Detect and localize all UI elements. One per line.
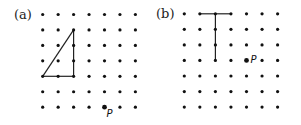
- grid-dot: [103, 90, 106, 93]
- grid-dot: [229, 12, 232, 15]
- grid-dot: [72, 44, 75, 47]
- grid-dot: [72, 59, 75, 62]
- grid-dot: [87, 28, 90, 31]
- grid-dot: [118, 106, 121, 109]
- grid-dot: [260, 106, 263, 109]
- grid-dot: [260, 28, 263, 31]
- grid-dot: [118, 90, 121, 93]
- point-p-label: P: [107, 108, 114, 119]
- grid-dot: [260, 74, 263, 77]
- grid-dot: [72, 75, 75, 78]
- dot-grid-figure: (a) (b) P P: [0, 0, 301, 125]
- grid-dot: [134, 59, 137, 62]
- grid-dot: [229, 28, 232, 31]
- grid-dot: [276, 43, 279, 46]
- grid-dot: [183, 59, 186, 62]
- grid-dot: [57, 13, 60, 16]
- grid-dot: [198, 43, 201, 46]
- grid-dot: [57, 59, 60, 62]
- grid-dot: [134, 28, 137, 31]
- grid-dot: [245, 12, 248, 15]
- grid-dot: [198, 106, 201, 109]
- grid-dot: [57, 106, 60, 109]
- grid-dot: [118, 59, 121, 62]
- grid-dot: [229, 59, 232, 62]
- grid-dot: [276, 106, 279, 109]
- grid-dot: [41, 75, 44, 78]
- point-p-dot: [244, 58, 249, 63]
- grid-dot: [87, 106, 90, 109]
- grid-dot: [229, 90, 232, 93]
- grid-dot: [276, 28, 279, 31]
- grid-dot: [87, 44, 90, 47]
- grid-dot: [134, 44, 137, 47]
- grid-dot: [245, 90, 248, 93]
- grid-dot: [103, 59, 106, 62]
- grid-dot: [57, 28, 60, 31]
- panel-a-label: (a): [14, 7, 32, 22]
- grid-dot: [118, 75, 121, 78]
- panel-b-grid: P: [183, 12, 280, 109]
- grid-dot: [87, 75, 90, 78]
- grid-dot: [214, 12, 217, 15]
- grid-dot: [134, 106, 137, 109]
- grid-dot: [87, 13, 90, 16]
- grid-dot: [245, 106, 248, 109]
- grid-dot: [229, 43, 232, 46]
- panel-a-grid: P: [41, 13, 137, 119]
- grid-dot: [72, 106, 75, 109]
- grid-dot: [245, 28, 248, 31]
- grid-dot: [198, 74, 201, 77]
- grid-dot: [183, 43, 186, 46]
- grid-dot: [118, 13, 121, 16]
- grid-dot: [103, 13, 106, 16]
- grid-dot: [87, 59, 90, 62]
- grid-dot: [57, 75, 60, 78]
- grid-dot: [183, 106, 186, 109]
- grid-dot: [276, 59, 279, 62]
- grid-dot: [57, 90, 60, 93]
- grid-dot: [214, 90, 217, 93]
- grid-dot: [276, 12, 279, 15]
- grid-dot: [41, 13, 44, 16]
- grid-dot: [72, 28, 75, 31]
- grid-dot: [103, 44, 106, 47]
- grid-dot: [214, 28, 217, 31]
- grid-dot: [41, 28, 44, 31]
- grid-dot: [198, 59, 201, 62]
- grid-dot: [198, 90, 201, 93]
- grid-dot: [118, 28, 121, 31]
- grid-dot: [214, 59, 217, 62]
- grid-dot: [276, 90, 279, 93]
- grid-dot: [229, 74, 232, 77]
- grid-dot: [260, 12, 263, 15]
- grid-dot: [41, 59, 44, 62]
- grid-dot: [229, 106, 232, 109]
- grid-dot: [260, 90, 263, 93]
- grid-dot: [41, 44, 44, 47]
- grid-dot: [72, 13, 75, 16]
- grid-dot: [214, 74, 217, 77]
- grid-dot: [214, 106, 217, 109]
- grid-dot: [276, 74, 279, 77]
- grid-dot: [134, 13, 137, 16]
- grid-dot: [183, 28, 186, 31]
- grid-dot: [57, 44, 60, 47]
- grid-dot: [183, 12, 186, 15]
- grid-dot: [198, 12, 201, 15]
- grid-dot: [103, 75, 106, 78]
- triangle-edge: [43, 30, 74, 76]
- grid-dot: [198, 28, 201, 31]
- grid-dot: [134, 75, 137, 78]
- grid-dot: [118, 44, 121, 47]
- grid-dot: [214, 43, 217, 46]
- grid-dot: [183, 90, 186, 93]
- grid-dot: [72, 90, 75, 93]
- grid-dot: [183, 74, 186, 77]
- grid-dot: [245, 74, 248, 77]
- panel-b-label: (b): [156, 6, 174, 21]
- grid-dot: [245, 43, 248, 46]
- grid-dot: [103, 28, 106, 31]
- grid-dot: [41, 90, 44, 93]
- grid-dot: [134, 90, 137, 93]
